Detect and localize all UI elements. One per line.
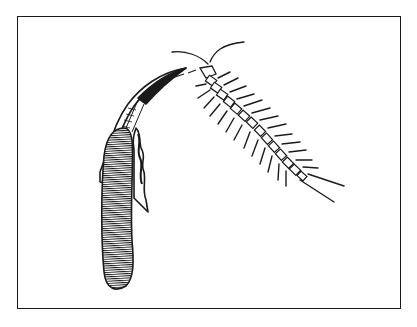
centipede-icon xyxy=(172,42,344,202)
illustration-canvas xyxy=(0,0,417,327)
segmented-limb-icon xyxy=(102,128,133,289)
